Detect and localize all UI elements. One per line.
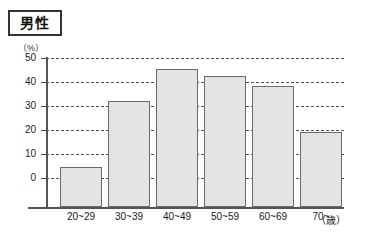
y-tick-label-30: 30 — [10, 101, 36, 111]
bar-30~39 — [108, 101, 150, 207]
x-axis-unit-label: （歳） — [316, 212, 346, 227]
y-tick-label-50: 50 — [10, 53, 36, 63]
y-tick-label-20: 20 — [10, 125, 36, 135]
y-tick-label-0: 0 — [10, 173, 36, 183]
y-axis-line — [46, 57, 48, 208]
bar-chart: （%） 01020304050 20~2930~3940~4950~5960~6… — [0, 0, 366, 245]
x-tick-label-20~29: 20~29 — [57, 212, 105, 222]
x-tick-label-40~49: 40~49 — [153, 212, 201, 222]
bar-50~59 — [204, 76, 246, 207]
x-tick-label-30~39: 30~39 — [105, 212, 153, 222]
x-axis-line — [28, 207, 344, 209]
bar-70~ — [300, 132, 342, 207]
gridline-50 — [46, 58, 344, 59]
bar-40~49 — [156, 69, 198, 207]
x-tick-label-50~59: 50~59 — [201, 212, 249, 222]
y-tick-label-40: 40 — [10, 77, 36, 87]
y-tick-label-10: 10 — [10, 149, 36, 159]
x-tick-label-60~69: 60~69 — [249, 212, 297, 222]
bar-60~69 — [252, 86, 294, 207]
bar-20~29 — [60, 167, 102, 207]
